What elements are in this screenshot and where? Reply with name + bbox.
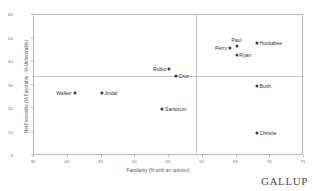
data-point-label: Huckabee [260, 40, 283, 46]
data-point-label: Rubio [153, 66, 166, 72]
x-tick-mark [67, 155, 68, 157]
x-tick-mark [269, 155, 270, 157]
x-tick-label: 55 [156, 159, 180, 164]
data-point-label: Ryan [239, 52, 251, 58]
data-point-label: Walker [56, 90, 71, 96]
y-tick-label: 40 [0, 59, 13, 64]
data-point [255, 84, 258, 87]
data-point-label: Paul [231, 37, 241, 43]
reference-line-vertical [196, 15, 197, 154]
x-tick-label: 40 [55, 159, 79, 164]
data-point-label: Cruz [179, 73, 190, 79]
data-point-label: Jindal [104, 90, 117, 96]
data-point [161, 107, 164, 110]
data-point-label: Bush [260, 83, 271, 89]
x-tick-label: 70 [257, 159, 281, 164]
x-tick-label: 50 [122, 159, 146, 164]
y-tick-label: 0 [0, 153, 13, 158]
data-point [73, 91, 76, 94]
data-point-label: Perry [215, 45, 227, 51]
x-tick-label: 75 [291, 159, 315, 164]
y-axis-title: Net Favorable (% Favorable - % Unfavorab… [24, 12, 29, 162]
y-tick-label: 10 [0, 129, 13, 134]
x-tick-label: 45 [89, 159, 113, 164]
x-tick-mark [236, 155, 237, 157]
data-point-label: Santorum [165, 106, 187, 112]
data-point [167, 67, 170, 70]
data-point [255, 42, 258, 45]
x-tick-mark [202, 155, 203, 157]
x-tick-mark [101, 155, 102, 157]
y-tick-label: 30 [0, 82, 13, 87]
y-tick-label: 60 [0, 12, 13, 17]
x-tick-label: 60 [190, 159, 214, 164]
data-point [228, 46, 231, 49]
y-tick-label: 20 [0, 106, 13, 111]
data-point [235, 44, 238, 47]
data-point [174, 75, 177, 78]
x-tick-label: 65 [224, 159, 248, 164]
x-tick-mark [168, 155, 169, 157]
x-tick-mark [303, 155, 304, 157]
plot-area: WalkerJindalRubioCruzSantorumPerryPaulRy… [33, 14, 303, 155]
x-tick-mark [33, 155, 34, 157]
gallup-logo: GALLUP [261, 175, 308, 187]
x-tick-mark [134, 155, 135, 157]
data-point [100, 91, 103, 94]
data-point [255, 131, 258, 134]
data-point-label: Christie [260, 130, 277, 136]
reference-line-horizontal [34, 76, 302, 77]
x-axis-title: Familarity (% with an opinion) [0, 168, 316, 173]
data-point [235, 53, 238, 56]
gallup-scatter-chart: 0102030405060 354045505560657075 Net Fav… [0, 0, 316, 191]
y-tick-label: 50 [0, 35, 13, 40]
